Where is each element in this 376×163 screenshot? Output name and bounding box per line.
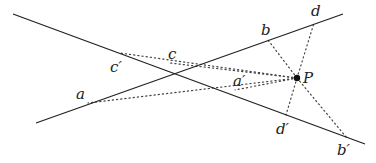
label-a-prime: a′ [233, 72, 246, 90]
point-p-dot [294, 75, 300, 81]
projective-diagram: Pacbdc′a′d′b′ [0, 0, 376, 163]
diagram-svg: Pacbdc′a′d′b′ [0, 0, 376, 163]
label-b-prime: b′ [337, 141, 351, 159]
label-a: a [76, 85, 85, 103]
ray-d-prime [286, 78, 297, 115]
line-2 [36, 14, 343, 123]
label-d-prime: d′ [276, 120, 290, 138]
label-c-prime: c′ [110, 58, 122, 76]
ray-b [268, 40, 297, 78]
ray-a [88, 78, 297, 103]
label-d: d [311, 2, 321, 20]
ray-c-prime [120, 53, 297, 78]
label-b: b [261, 21, 271, 39]
ray-b-prime [297, 78, 347, 138]
label-c: c [168, 45, 177, 63]
label-p: P [302, 69, 314, 87]
